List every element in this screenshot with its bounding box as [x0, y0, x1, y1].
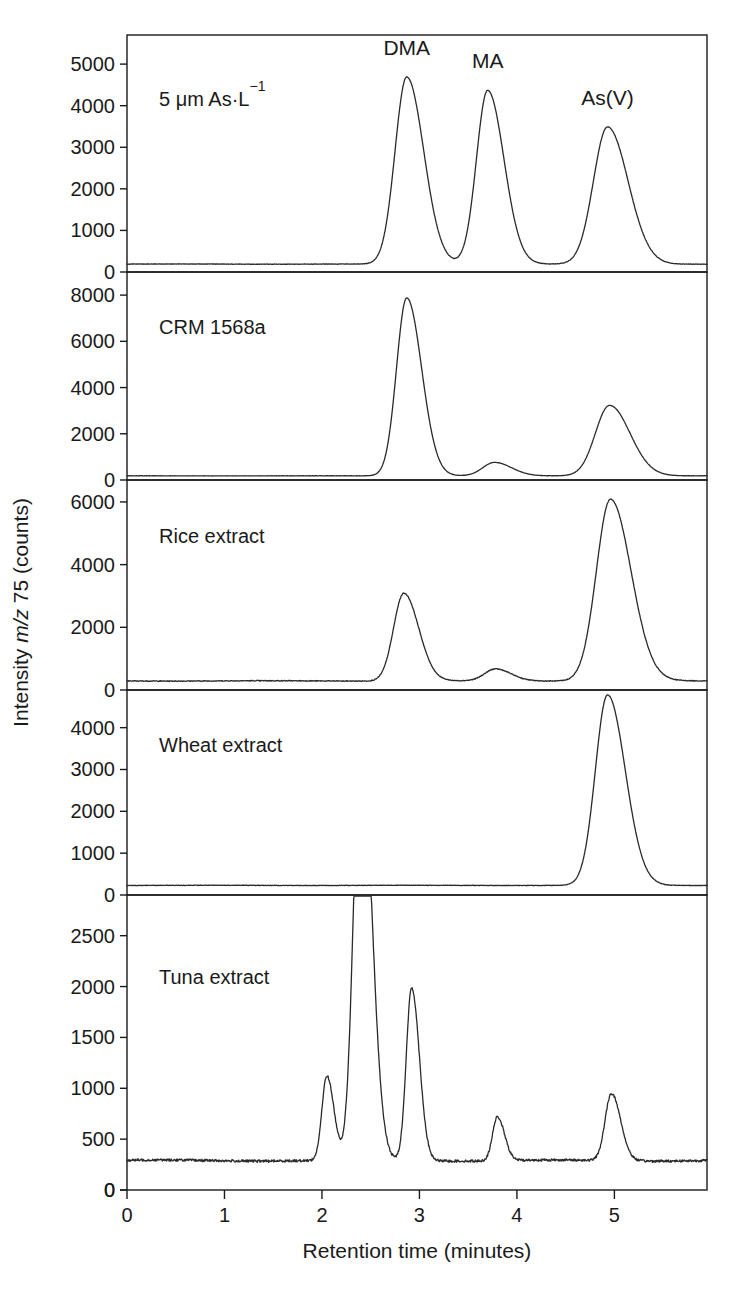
y-tick-label: 1000	[71, 842, 116, 864]
panel-label: Wheat extract	[159, 734, 283, 756]
y-tick-label: 1500	[71, 1026, 116, 1048]
chromatogram-figure: 0100020003000400050005 μm As·L−102000400…	[0, 0, 732, 1295]
x-tick-label: 0	[121, 1204, 132, 1226]
x-tick-label: 3	[414, 1204, 425, 1226]
y-tick-label: 2500	[71, 925, 116, 947]
peak-annotation-AsV: As(V)	[581, 86, 634, 109]
y-tick-label: 0	[104, 679, 115, 701]
y-tick-label-zero: 0	[104, 1179, 115, 1201]
y-axis-title: Intensity m/z 75 (counts)	[9, 498, 32, 727]
y-tick-label: 4000	[71, 554, 116, 576]
panel-label: Tuna extract	[159, 966, 270, 988]
y-tick-label: 3000	[71, 136, 116, 158]
peak-label: MA	[472, 49, 504, 72]
y-tick-label: 2000	[71, 423, 116, 445]
y-tick-label: 0	[104, 884, 115, 906]
chromatogram-svg: 0100020003000400050005 μm As·L−102000400…	[0, 0, 732, 1295]
peak-annotation-DMA: DMA	[383, 36, 430, 59]
peak-label: DMA	[383, 36, 430, 59]
x-axis-title: Retention time (minutes)	[303, 1239, 532, 1262]
y-tick-label: 4000	[71, 95, 116, 117]
y-tick-label: 2000	[71, 178, 116, 200]
y-tick-label: 3000	[71, 758, 116, 780]
y-tick-label: 4000	[71, 377, 116, 399]
x-tick-label: 4	[511, 1204, 522, 1226]
y-tick-label: 500	[82, 1128, 115, 1150]
peak-annotation-MA: MA	[472, 49, 504, 72]
y-tick-label: 1000	[71, 1077, 116, 1099]
y-tick-label: 5000	[71, 53, 116, 75]
y-tick-label: 6000	[71, 491, 116, 513]
y-tick-label: 4000	[71, 717, 116, 739]
y-tick-label: 2000	[71, 616, 116, 638]
peak-label: As(V)	[581, 86, 634, 109]
y-tick-label: 2000	[71, 800, 116, 822]
y-tick-label: 6000	[71, 330, 116, 352]
x-tick-label: 1	[219, 1204, 230, 1226]
y-tick-label: 2000	[71, 976, 116, 998]
x-tick-label: 5	[609, 1204, 620, 1226]
x-tick-label: 2	[316, 1204, 327, 1226]
panel-label: CRM 1568a	[159, 316, 267, 338]
y-tick-label: 0	[104, 469, 115, 491]
y-tick-label: 8000	[71, 284, 116, 306]
y-tick-label: 1000	[71, 219, 116, 241]
y-tick-label: 0	[104, 261, 115, 283]
panel-label: Rice extract	[159, 525, 265, 547]
